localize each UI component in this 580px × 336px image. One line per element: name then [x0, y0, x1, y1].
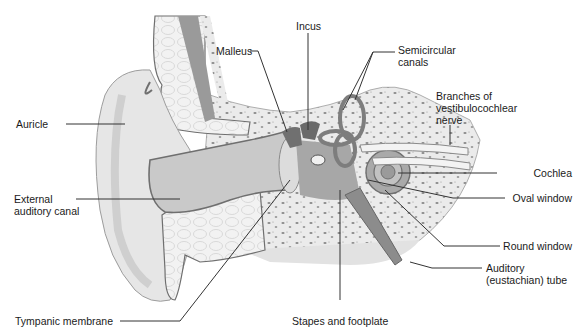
- label-round-window: Round window: [503, 240, 572, 252]
- label-tympanic-membrane: Tympanic membrane: [15, 315, 113, 327]
- label-stapes-and-footplate: Stapes and footplate: [292, 315, 388, 327]
- label-malleus: Malleus: [216, 45, 252, 57]
- label-cochlea: Cochlea: [533, 167, 572, 179]
- label-auricle: Auricle: [16, 118, 48, 130]
- label-external-auditory-canal: External auditory canal: [14, 193, 79, 217]
- label-semicircular-canals: Semicircular canals: [398, 44, 456, 68]
- label-oval-window: Oval window: [512, 192, 572, 204]
- label-incus: Incus: [296, 20, 321, 32]
- label-branches-vestibulocochlear-nerve: Branches of vestibulocochlear nerve: [436, 90, 517, 126]
- ear-anatomy-diagram: Malleus Incus Semicircular canals Branch…: [0, 0, 580, 336]
- label-auditory-tube: Auditory (eustachian) tube: [486, 262, 567, 286]
- stapes-shape: [311, 155, 325, 165]
